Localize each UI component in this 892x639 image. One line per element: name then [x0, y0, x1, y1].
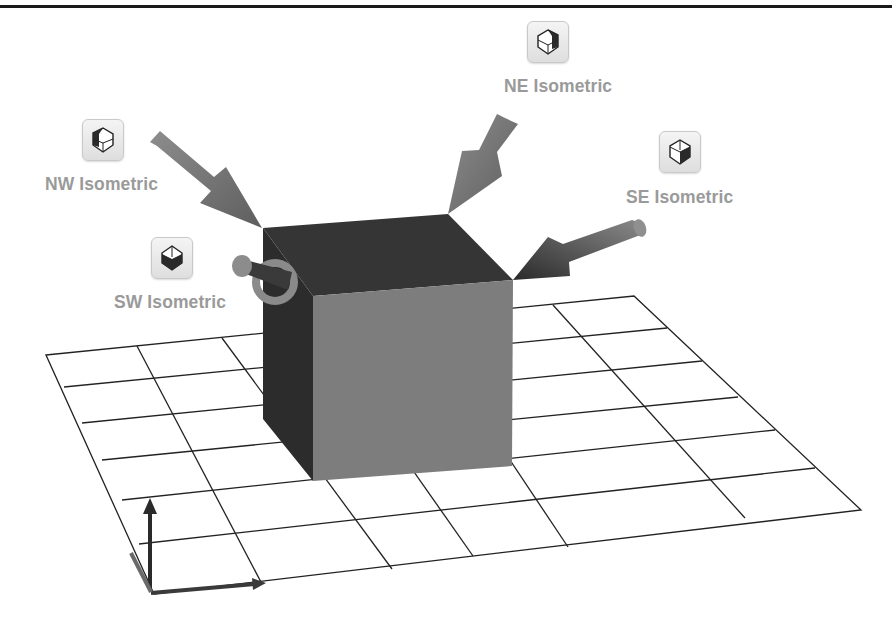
se-view-arrow [513, 217, 649, 280]
nw-view-arrow [150, 131, 262, 228]
ne-view-arrow [448, 114, 518, 214]
sw-isometric-button[interactable] [151, 237, 193, 279]
isometric-scene [0, 0, 892, 639]
cube-front-face [313, 280, 513, 481]
nw-isometric-button[interactable] [82, 119, 124, 161]
nw-isometric-icon [88, 125, 118, 155]
ne-isometric-icon [533, 27, 563, 57]
nw-isometric-label: NW Isometric [45, 174, 158, 195]
se-isometric-icon [665, 137, 695, 167]
ne-isometric-button[interactable] [527, 21, 569, 63]
sw-isometric-icon [157, 243, 187, 273]
ne-isometric-label: NE Isometric [504, 76, 612, 97]
se-isometric-label: SE Isometric [626, 187, 733, 208]
cube [263, 214, 513, 481]
sw-isometric-label: SW Isometric [114, 292, 226, 313]
se-isometric-button[interactable] [659, 131, 701, 173]
